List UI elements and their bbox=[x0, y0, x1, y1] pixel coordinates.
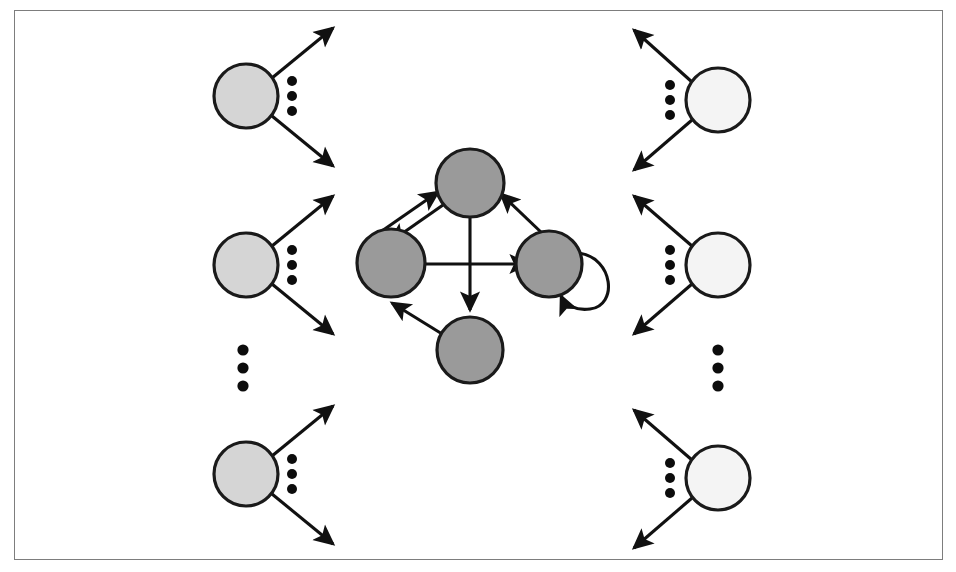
ellipsis-input-node-2 bbox=[287, 245, 297, 285]
ellipsis-dot bbox=[287, 91, 297, 101]
input-node-1[interactable] bbox=[214, 64, 278, 128]
core-node-top[interactable] bbox=[436, 149, 504, 217]
edge-core-bottom-to-left bbox=[392, 303, 447, 337]
core-node-bottom[interactable] bbox=[437, 317, 503, 383]
edge-input-L1-up bbox=[272, 28, 333, 78]
ellipsis-dot bbox=[287, 454, 297, 464]
output-node-3[interactable] bbox=[686, 446, 750, 510]
edge-input-L1-down bbox=[272, 116, 333, 166]
output-node-arrows bbox=[634, 30, 692, 548]
ellipsis-dot bbox=[665, 275, 675, 285]
ellipsis-dot bbox=[287, 469, 297, 479]
ellipsis-output-node-1 bbox=[665, 80, 675, 120]
output-node-group bbox=[686, 68, 750, 510]
ellipsis-dot bbox=[712, 362, 723, 373]
ellipsis-dot bbox=[287, 106, 297, 116]
ellipsis-dot bbox=[287, 76, 297, 86]
edge-output-R2-up bbox=[634, 196, 692, 246]
edge-core-right-to-top bbox=[501, 194, 543, 234]
input-node-3[interactable] bbox=[214, 442, 278, 506]
ellipsis-dot bbox=[237, 380, 248, 391]
edge-core-left-to-top bbox=[379, 192, 438, 233]
edge-output-R1-down bbox=[634, 120, 692, 170]
edge-output-R2-down bbox=[634, 284, 692, 334]
ellipsis-input-node-1 bbox=[287, 76, 297, 116]
edge-input-L3-up bbox=[272, 406, 333, 456]
ellipsis-dot bbox=[287, 275, 297, 285]
output-node-2[interactable] bbox=[686, 233, 750, 297]
ellipsis-dot bbox=[665, 110, 675, 120]
ellipsis-dot bbox=[237, 344, 248, 355]
ellipsis-input-node-3 bbox=[287, 454, 297, 494]
ellipsis-input-column bbox=[237, 344, 248, 391]
ellipsis-dot bbox=[665, 488, 675, 498]
ellipsis-dot bbox=[712, 380, 723, 391]
core-node-right[interactable] bbox=[516, 231, 582, 297]
diagram-canvas bbox=[0, 0, 956, 572]
core-node-left[interactable] bbox=[357, 229, 425, 297]
edge-output-R3-up bbox=[634, 410, 692, 460]
ellipsis-dot bbox=[287, 260, 297, 270]
output-node-1[interactable] bbox=[686, 68, 750, 132]
input-node-2[interactable] bbox=[214, 233, 278, 297]
ellipsis-dot bbox=[665, 473, 675, 483]
edge-input-L2-up bbox=[272, 196, 333, 246]
network-diagram bbox=[0, 0, 956, 572]
ellipsis-dot bbox=[665, 458, 675, 468]
ellipsis-dot bbox=[665, 260, 675, 270]
input-node-arrows bbox=[272, 28, 333, 544]
edge-input-L2-down bbox=[272, 284, 333, 334]
ellipsis-dot bbox=[237, 362, 248, 373]
input-node-group bbox=[214, 64, 278, 506]
ellipsis-dot bbox=[287, 484, 297, 494]
ellipsis-output-node-3 bbox=[665, 458, 675, 498]
edge-input-L3-down bbox=[272, 494, 333, 544]
ellipsis-output-column bbox=[712, 344, 723, 391]
ellipsis-output-node-2 bbox=[665, 245, 675, 285]
ellipsis-dot bbox=[665, 80, 675, 90]
ellipsis-dot bbox=[712, 344, 723, 355]
edge-output-R1-up bbox=[634, 30, 692, 82]
ellipsis-dot bbox=[287, 245, 297, 255]
ellipsis-dot bbox=[665, 95, 675, 105]
edge-output-R3-down bbox=[634, 498, 692, 548]
ellipsis-dot bbox=[665, 245, 675, 255]
